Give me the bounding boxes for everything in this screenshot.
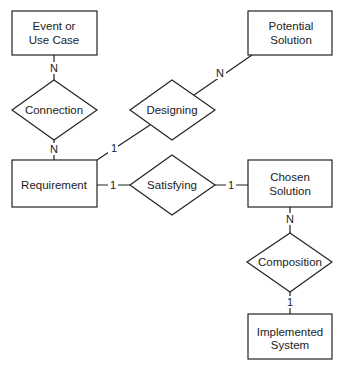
entity-chosen-box	[248, 160, 332, 207]
entity-implemented-line2: System	[271, 339, 309, 351]
cardinality-chosen-composition: N	[286, 213, 294, 225]
relationship-designing-label: Designing	[146, 104, 197, 116]
entity-event-line1: Event or	[33, 20, 76, 32]
entity-potential-line1: Potential	[269, 20, 314, 32]
entity-event-box	[12, 11, 97, 55]
cardinality-requirement-satisfying: 1	[110, 179, 116, 191]
cardinality-designing-potential: N	[216, 67, 224, 79]
entity-implemented-line1: Implemented	[257, 326, 323, 338]
entity-requirement-label: Requirement	[21, 179, 88, 191]
cardinality-composition-implemented: 1	[287, 296, 293, 308]
cardinality-satisfying-chosen: 1	[228, 179, 234, 191]
entity-potential-line2: Solution	[270, 34, 312, 46]
cardinality-event-connection: N	[50, 62, 58, 74]
relationship-satisfying-label: Satisfying	[147, 179, 197, 191]
cardinality-connection-requirement: N	[50, 143, 58, 155]
cardinality-requirement-designing: 1	[111, 142, 117, 154]
entity-potential-box	[248, 11, 332, 55]
relationship-composition-label: Composition	[258, 256, 322, 268]
entity-event-line2: Use Case	[29, 34, 80, 46]
edge-requirement-designing	[97, 125, 150, 160]
entity-chosen-line1: Chosen	[270, 171, 310, 183]
er-diagram: Event or Use Case Requirement Potential …	[0, 0, 347, 371]
relationship-connection-label: Connection	[25, 104, 83, 116]
entity-chosen-line2: Solution	[269, 185, 311, 197]
